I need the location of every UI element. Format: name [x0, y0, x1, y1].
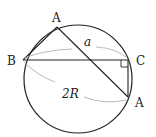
brace-a-left: [24, 49, 72, 58]
segment-ab: [23, 27, 57, 60]
right-angle-mark: [121, 60, 128, 67]
geometry-diagram: A B C A a 2R: [0, 0, 156, 137]
label-b: B: [7, 54, 16, 68]
brace-a-right: [96, 47, 126, 57]
label-a-bottom: A: [134, 96, 144, 110]
label-a-top: A: [51, 11, 61, 25]
brace-2r-left: [24, 62, 55, 82]
label-diameter: 2R: [61, 87, 79, 101]
circumcircle: [24, 25, 132, 133]
label-side-a: a: [84, 35, 91, 49]
label-c: C: [136, 54, 145, 68]
brace-2r-right: [84, 97, 126, 102]
